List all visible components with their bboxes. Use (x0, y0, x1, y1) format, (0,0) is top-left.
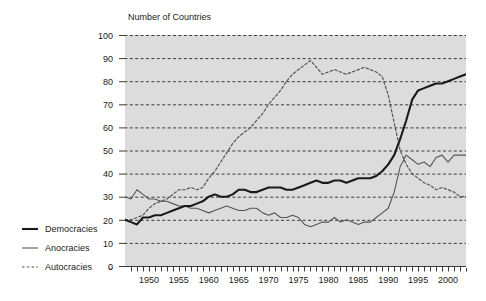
x-tick-marks (132, 267, 467, 272)
chart-title: Number of Countries (128, 12, 212, 22)
y-tick-label: 40 (103, 169, 113, 179)
x-tick-label: 1975 (288, 275, 308, 285)
x-tick-label: 1980 (318, 275, 338, 285)
regime-types-line-chart: 0102030405060708090100195019551960196519… (0, 0, 486, 301)
x-tick-label: 1995 (408, 275, 428, 285)
y-tick-label: 10 (103, 239, 113, 249)
y-tick-label: 20 (103, 216, 113, 226)
y-tick-label: 90 (103, 54, 113, 64)
right-mask (466, 33, 486, 268)
legend-label-democracies: Democracies (45, 224, 98, 234)
x-tick-labels: 1950195519601965197019751980198519901995… (139, 275, 458, 285)
x-tick-label: 1965 (229, 275, 249, 285)
y-tick-label: 100 (98, 31, 113, 41)
y-tick-label: 60 (103, 123, 113, 133)
legend-label-autocracies: Autocracies (45, 262, 93, 272)
y-tick-label: 80 (103, 77, 113, 87)
y-tick-label: 50 (103, 146, 113, 156)
legend-label-anocracies: Anocracies (45, 243, 90, 253)
x-tick-label: 1990 (378, 275, 398, 285)
y-tick-label: 0 (108, 262, 113, 272)
x-tick-label: 1960 (199, 275, 219, 285)
chart-container: 0102030405060708090100195019551960196519… (0, 0, 486, 301)
y-tick-label: 30 (103, 192, 113, 202)
plot-background (125, 35, 466, 266)
x-tick-label: 2000 (438, 275, 458, 285)
y-tick-label: 70 (103, 100, 113, 110)
x-tick-label: 1970 (259, 275, 279, 285)
x-tick-label: 1955 (169, 275, 189, 285)
x-tick-label: 1985 (348, 275, 368, 285)
x-tick-label: 1950 (139, 275, 159, 285)
